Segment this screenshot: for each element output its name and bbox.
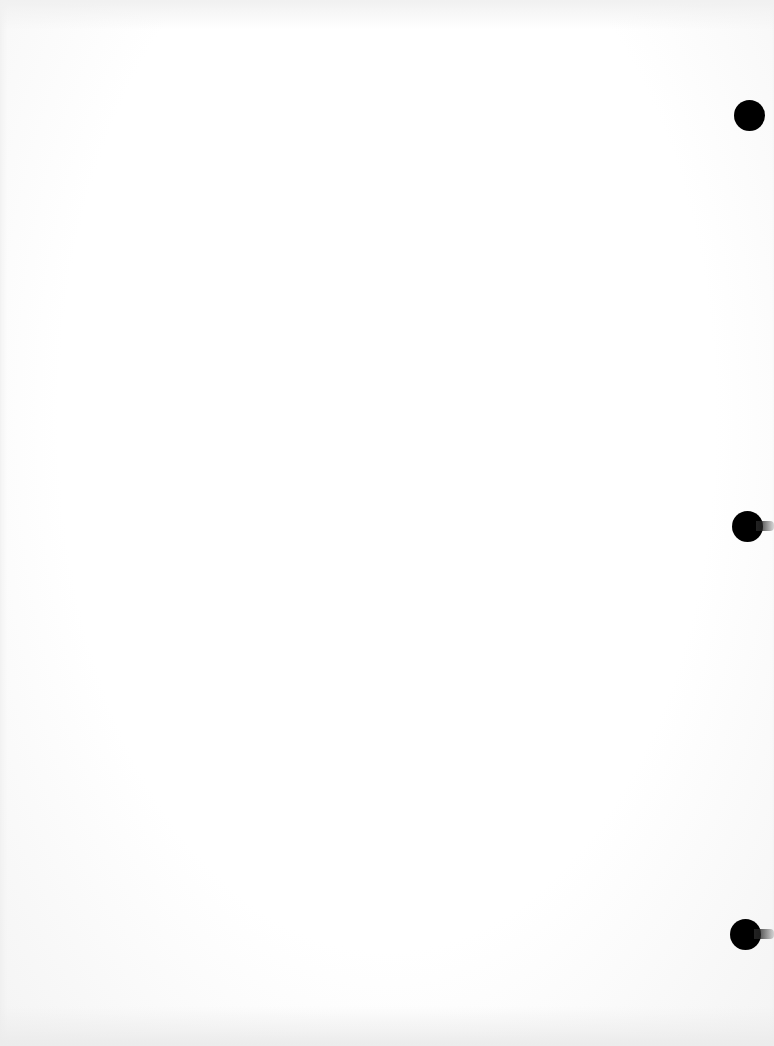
punch-hole-top (734, 100, 765, 131)
punch-hole-middle-shadow (756, 521, 774, 531)
blank-page (0, 0, 774, 1046)
scan-shadow-bottom (0, 1006, 774, 1046)
punch-hole-bottom-shadow (754, 929, 774, 939)
scan-shadow-top (0, 0, 774, 30)
